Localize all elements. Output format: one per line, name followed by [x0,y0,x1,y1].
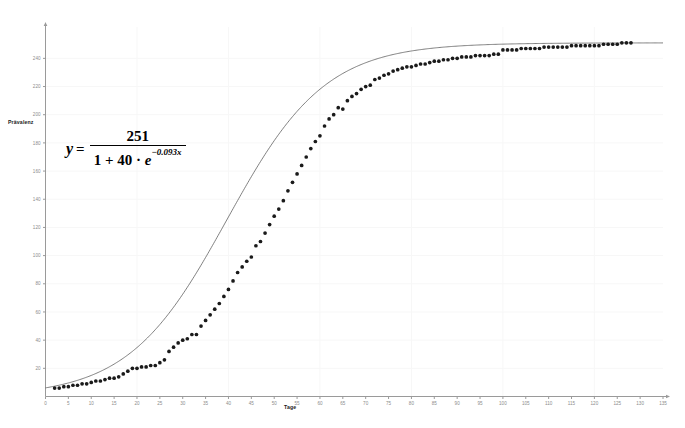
svg-text:45: 45 [249,401,255,406]
svg-text:65: 65 [340,401,346,406]
svg-text:85: 85 [432,401,438,406]
gridlines [46,27,664,397]
equation-lhs: y [66,140,76,158]
equation-denominator: 1 + 40 · e−0.093x [90,146,186,170]
svg-text:95: 95 [477,401,483,406]
logistic-growth-chart: 20406080100120140160180200220240 0510152… [0,0,685,428]
fitted-logistic-curve [46,43,664,388]
svg-text:10: 10 [89,401,95,406]
data-points [53,41,633,390]
svg-text:160: 160 [33,169,41,174]
svg-text:180: 180 [33,141,41,146]
equation-fraction: 251 1 + 40 · e−0.093x [90,128,186,170]
svg-text:135: 135 [659,401,667,406]
svg-text:30: 30 [180,401,186,406]
svg-text:50: 50 [272,401,278,406]
y-axis-ticks: 20406080100120140160180200220240 [33,56,46,371]
svg-text:25: 25 [157,401,163,406]
svg-text:105: 105 [522,401,530,406]
svg-text:80: 80 [35,281,41,286]
svg-text:200: 200 [33,112,41,117]
svg-text:100: 100 [33,253,41,258]
svg-text:20: 20 [35,366,41,371]
model-equation: y = 251 1 + 40 · e−0.093x [66,126,206,172]
svg-text:140: 140 [33,197,41,202]
svg-text:20: 20 [134,401,140,406]
x-axis-title: Tage [284,404,296,410]
svg-text:90: 90 [455,401,461,406]
svg-text:35: 35 [203,401,209,406]
equation-denominator-prefix: 1 + 40 · [94,152,145,168]
svg-text:220: 220 [33,84,41,89]
equation-numerator: 251 [122,128,153,145]
svg-text:40: 40 [35,338,41,343]
svg-text:120: 120 [33,225,41,230]
svg-text:130: 130 [636,401,644,406]
plot-canvas: 20406080100120140160180200220240 0510152… [0,0,685,428]
y-axis-title: Prävalenz [8,119,34,125]
svg-text:0: 0 [44,401,47,406]
equation-denominator-exponent: −0.093x [151,147,181,157]
axis-lines [44,22,670,398]
svg-text:110: 110 [545,401,553,406]
x-axis-ticks: 0510152025303540455055606570758085909510… [44,397,667,406]
svg-text:80: 80 [409,401,415,406]
svg-text:60: 60 [35,310,41,315]
svg-text:15: 15 [112,401,118,406]
svg-text:125: 125 [613,401,621,406]
svg-text:60: 60 [317,401,323,406]
equation-equals-sign: = [76,141,90,158]
svg-text:240: 240 [33,56,41,61]
svg-text:40: 40 [226,401,232,406]
svg-text:5: 5 [67,401,70,406]
svg-text:70: 70 [363,401,369,406]
svg-text:100: 100 [499,401,507,406]
svg-text:75: 75 [386,401,392,406]
svg-text:120: 120 [591,401,599,406]
svg-text:115: 115 [568,401,576,406]
